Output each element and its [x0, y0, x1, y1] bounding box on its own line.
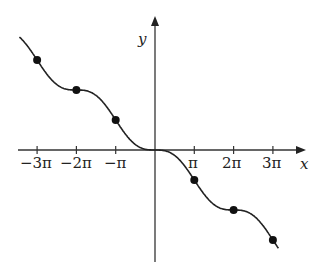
y-axis	[151, 16, 159, 262]
function-curve	[19, 37, 278, 248]
x-axis-label: x	[300, 155, 308, 173]
tick-label: 3π	[262, 154, 281, 172]
y-axis-label: y	[138, 30, 146, 48]
tick-label: −π	[104, 154, 126, 172]
tick-label: π	[188, 154, 198, 172]
tick-label: 2π	[222, 154, 241, 172]
tick-label: −2π	[60, 154, 92, 172]
plot-canvas	[0, 0, 334, 280]
tick-label: −3π	[20, 154, 52, 172]
